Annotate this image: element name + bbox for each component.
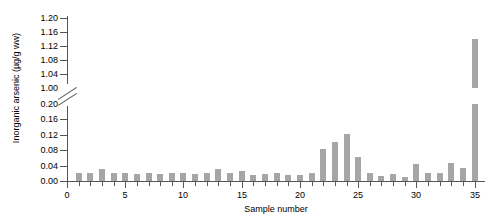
arsenic-bar-chart: Inorganic arsenic (µg/g ww) 0.000.040.08… [0, 0, 492, 224]
x-axis-line [67, 181, 485, 182]
x-tick [160, 182, 161, 186]
bar [146, 173, 152, 181]
bar [250, 175, 256, 181]
bar [320, 149, 326, 181]
y-tick-label: 1.16 [28, 28, 58, 37]
x-tick [405, 182, 406, 186]
bar [425, 173, 431, 181]
y-tick-label: 0.08 [28, 146, 58, 155]
bar [180, 173, 186, 181]
y-tick-label: 0.04 [28, 162, 58, 171]
bar [460, 168, 466, 181]
x-tick [67, 182, 68, 188]
bar [192, 174, 198, 181]
x-tick [125, 182, 126, 188]
bar [332, 142, 338, 181]
x-tick [300, 182, 301, 188]
bar [262, 174, 268, 181]
bar [378, 176, 384, 181]
x-tick [463, 182, 464, 186]
bar [344, 134, 350, 181]
x-tick [207, 182, 208, 186]
y-tick [60, 181, 67, 182]
x-tick [428, 182, 429, 186]
x-tick-label: 5 [113, 190, 137, 200]
bar [413, 164, 419, 181]
x-tick [172, 182, 173, 186]
y-tick-label: 1.00 [28, 84, 58, 93]
x-tick [440, 182, 441, 186]
x-tick [335, 182, 336, 186]
x-tick [475, 182, 476, 188]
bar [227, 173, 233, 181]
bar [402, 177, 408, 181]
y-tick-label: 1.04 [28, 70, 58, 79]
bar [437, 173, 443, 181]
y-tick-label: 0.20 [28, 100, 58, 109]
x-tick [370, 182, 371, 186]
x-tick [230, 182, 231, 186]
x-tick [358, 182, 359, 188]
bar [285, 175, 291, 181]
x-tick [183, 182, 184, 188]
y-tick-label: 1.20 [28, 14, 58, 23]
x-tick [323, 182, 324, 186]
bar [367, 173, 373, 181]
x-tick [288, 182, 289, 186]
bar [134, 174, 140, 181]
x-tick [277, 182, 278, 186]
x-tick [114, 182, 115, 186]
x-tick [218, 182, 219, 186]
bar [99, 169, 105, 181]
bar [215, 169, 221, 181]
x-axis-label: Sample number [67, 204, 485, 214]
x-tick [451, 182, 452, 186]
x-tick [265, 182, 266, 186]
x-tick [79, 182, 80, 186]
bar [448, 163, 454, 181]
y-tick [60, 46, 67, 47]
x-tick [242, 182, 243, 188]
bar-lower-segment [472, 104, 478, 181]
axis-break-marker [59, 84, 81, 106]
x-tick-label: 20 [288, 190, 312, 200]
bar [87, 173, 93, 181]
bar [111, 173, 117, 181]
x-tick [381, 182, 382, 186]
x-tick [102, 182, 103, 186]
y-tick [60, 60, 67, 61]
bar [157, 174, 163, 181]
x-tick-label: 35 [463, 190, 487, 200]
bar [390, 174, 396, 181]
x-tick [312, 182, 313, 186]
bar [239, 171, 245, 181]
y-tick-label: 0.12 [28, 131, 58, 140]
y-tick-label: 0.00 [28, 177, 58, 186]
y-tick [60, 150, 67, 151]
bar [169, 173, 175, 181]
bar [122, 173, 128, 181]
x-tick [149, 182, 150, 186]
x-tick-label: 10 [171, 190, 195, 200]
x-tick-label: 15 [230, 190, 254, 200]
x-tick-label: 0 [55, 190, 79, 200]
x-tick-label: 25 [346, 190, 370, 200]
x-tick [90, 182, 91, 186]
bar [309, 173, 315, 181]
bar [76, 173, 82, 181]
x-tick [253, 182, 254, 186]
x-tick [416, 182, 417, 188]
y-tick-label: 0.16 [28, 115, 58, 124]
y-axis-label: Inorganic arsenic (µg/g ww) [9, 0, 23, 188]
bar [355, 157, 361, 181]
x-tick [195, 182, 196, 186]
bar [297, 175, 303, 181]
y-tick-label: 1.12 [28, 42, 58, 51]
x-tick [137, 182, 138, 186]
bar [204, 173, 210, 181]
x-tick [393, 182, 394, 186]
x-tick-label: 30 [404, 190, 428, 200]
bar-upper-segment [472, 39, 478, 88]
y-tick-label: 1.08 [28, 56, 58, 65]
y-tick [60, 119, 67, 120]
